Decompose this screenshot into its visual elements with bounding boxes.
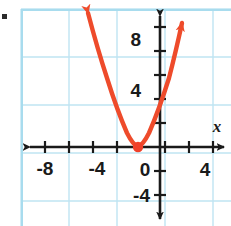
x-tick-label-zero: 0 bbox=[140, 159, 151, 180]
y-tick-label-8: 8 bbox=[130, 29, 141, 50]
y-tick-label-4: 4 bbox=[130, 80, 141, 101]
corner-mark bbox=[2, 14, 7, 19]
vertex-point bbox=[133, 142, 143, 152]
coordinate-plane-svg: -8 -4 0 4 8 4 -4 x bbox=[0, 0, 231, 226]
grid-background bbox=[21, 9, 231, 226]
y-tick-label-neg4: -4 bbox=[133, 185, 150, 206]
parabola-figure: -8 -4 0 4 8 4 -4 x bbox=[0, 0, 231, 226]
x-tick-label-4: 4 bbox=[200, 159, 211, 180]
x-tick-label-neg8: -8 bbox=[37, 158, 54, 179]
x-axis-name: x bbox=[212, 117, 222, 136]
x-tick-label-neg4: -4 bbox=[89, 158, 106, 179]
